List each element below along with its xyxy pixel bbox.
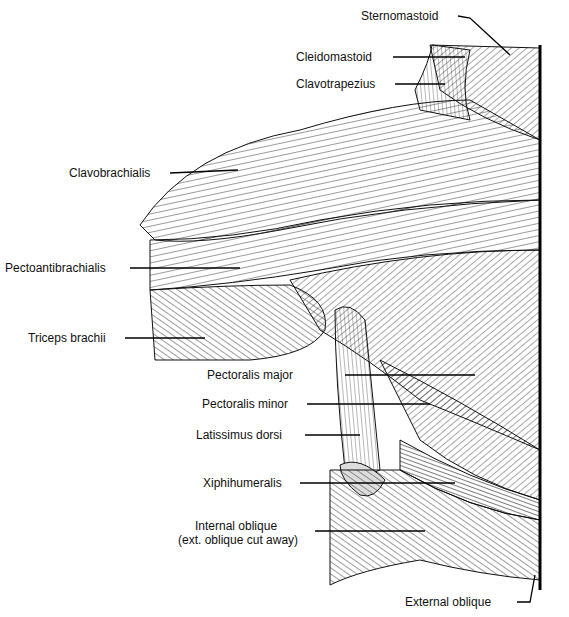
muscle-illustration xyxy=(0,0,569,617)
label-clavobrachialis: Clavobrachialis xyxy=(69,166,150,180)
label-external-oblique: External oblique xyxy=(405,595,491,609)
label-triceps-brachii: Triceps brachii xyxy=(28,331,106,345)
label-pectoralis-major: Pectoralis major xyxy=(207,368,293,382)
label-sternomastoid: Sternomastoid xyxy=(361,9,438,23)
label-latissimus-dorsi: Latissimus dorsi xyxy=(196,428,282,442)
label-cleidomastoid: Cleidomastoid xyxy=(296,50,372,64)
label-internal-oblique-note: (ext. oblique cut away) xyxy=(178,533,298,547)
label-pectoralis-minor: Pectoralis minor xyxy=(202,397,288,411)
label-clavotrapezius: Clavotrapezius xyxy=(296,77,375,91)
label-pectoantibrachialis: Pectoantibrachialis xyxy=(5,261,106,275)
label-internal-oblique: Internal oblique xyxy=(195,519,277,533)
label-xiphihumeralis: Xiphihumeralis xyxy=(203,476,282,490)
